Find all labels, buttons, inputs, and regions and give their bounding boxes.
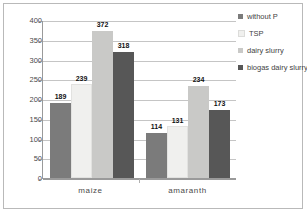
bar-maize-biogas-dairy-slurry[interactable]: 318 — [113, 52, 134, 178]
y-axis: 050100150200250300350400 — [0, 21, 42, 179]
bar-maize-dairy-slurry[interactable]: 372 — [92, 31, 113, 178]
y-tick-label: 100 — [6, 136, 42, 144]
y-tick-mark — [39, 179, 42, 180]
y-tick-label: 50 — [6, 156, 42, 164]
y-tick-label: 0 — [6, 175, 42, 183]
bar-chart: µg TPF/g/24 h 050100150200250300350400 1… — [0, 0, 307, 213]
x-axis-labels: maizeamaranth — [42, 186, 236, 195]
bar-value-label: 234 — [193, 76, 205, 83]
bar-value-label: 173 — [214, 100, 226, 107]
bar-maize-without-P[interactable]: 189 — [50, 103, 71, 178]
bar-amaranth-TSP[interactable]: 131 — [167, 126, 188, 178]
legend-swatch-icon — [238, 48, 243, 53]
legend-item-TSP[interactable]: TSP — [238, 25, 304, 42]
legend-item-biogas-dairy-slurry[interactable]: biogas dairy slurry — [238, 59, 304, 76]
legend-swatch-icon — [238, 14, 243, 19]
y-tick-label: 300 — [6, 57, 42, 65]
legend: without PTSPdairy slurrybiogas dairy slu… — [238, 8, 304, 76]
y-tick-label: 350 — [6, 37, 42, 45]
bar-slot: 318 — [113, 21, 134, 178]
y-tick-label: 400 — [6, 17, 42, 25]
legend-label: TSP — [249, 30, 264, 38]
bar-slot: 372 — [92, 21, 113, 178]
y-tick-label: 250 — [6, 77, 42, 85]
legend-label: dairy slurry — [247, 47, 284, 55]
bar-slot: 239 — [71, 21, 92, 178]
bar-maize-TSP[interactable]: 239 — [71, 84, 92, 178]
bar-value-label: 372 — [97, 21, 109, 28]
legend-swatch-icon — [238, 30, 245, 37]
bar-amaranth-biogas-dairy-slurry[interactable]: 173 — [209, 110, 230, 178]
x-axis-major-tick — [139, 179, 140, 183]
legend-swatch-icon — [238, 65, 243, 70]
legend-label: biogas dairy slurry — [247, 64, 307, 72]
bar-value-label: 318 — [118, 42, 130, 49]
bar-value-label: 189 — [55, 93, 67, 100]
plot-area: 189239372318114131234173 — [42, 21, 236, 179]
x-tick-label-maize: maize — [42, 186, 139, 195]
bar-amaranth-without-P[interactable]: 114 — [146, 133, 167, 178]
legend-item-without-P[interactable]: without P — [238, 8, 304, 25]
bar-value-label: 114 — [151, 123, 162, 130]
bar-slot: 173 — [209, 21, 230, 178]
bar-slot: 114 — [146, 21, 167, 178]
bar-group-maize: 189239372318 — [44, 21, 140, 178]
bar-amaranth-dairy-slurry[interactable]: 234 — [188, 86, 209, 178]
bar-value-label: 239 — [76, 75, 88, 82]
bar-value-label: 131 — [172, 117, 184, 124]
legend-label: without P — [247, 13, 278, 21]
y-tick-label: 150 — [6, 116, 42, 124]
bar-group-amaranth: 114131234173 — [140, 21, 236, 178]
x-tick-label-amaranth: amaranth — [139, 186, 236, 195]
bar-groups: 189239372318114131234173 — [44, 21, 236, 178]
bar-slot: 189 — [50, 21, 71, 178]
legend-item-dairy-slurry[interactable]: dairy slurry — [238, 42, 304, 59]
y-tick-label: 200 — [6, 96, 42, 104]
bar-slot: 131 — [167, 21, 188, 178]
bar-slot: 234 — [188, 21, 209, 178]
